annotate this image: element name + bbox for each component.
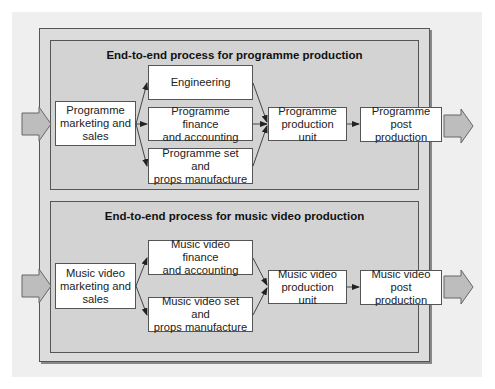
panel-title: End-to-end process for programme product… (51, 49, 418, 61)
music-video-production-unit-box: Music video production unit (268, 270, 347, 304)
music-video-post-production-box: Music video post production (360, 270, 442, 305)
programme-marketing-box: Programme marketing and sales (55, 101, 136, 146)
programme-set-props-box: Programme set and props manufacture (148, 148, 253, 184)
programme-post-production-box: Programme post production (360, 107, 442, 142)
music-video-marketing-box: Music video marketing and sales (55, 263, 136, 309)
engineering-box: Engineering (148, 65, 253, 100)
music-video-set-props-box: Music video set and props manufacture (148, 297, 253, 332)
programme-production-unit-box: Programme production unit (268, 107, 347, 141)
music-video-finance-box: Music video finance and accounting (148, 240, 253, 275)
programme-finance-box: Programme finance and accounting (148, 107, 253, 141)
panel-title: End-to-end process for music video produ… (51, 210, 418, 222)
